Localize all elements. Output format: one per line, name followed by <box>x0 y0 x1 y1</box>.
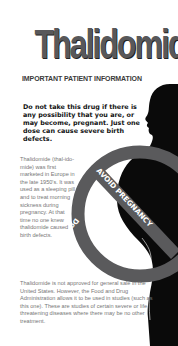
fda-paragraph: Thalidomide is not approved for general … <box>20 280 155 326</box>
warning-text: Do not take this drug if there is any po… <box>23 103 143 143</box>
history-paragraph: Thalidomide (thal-ido-mide) was first ma… <box>20 156 76 240</box>
